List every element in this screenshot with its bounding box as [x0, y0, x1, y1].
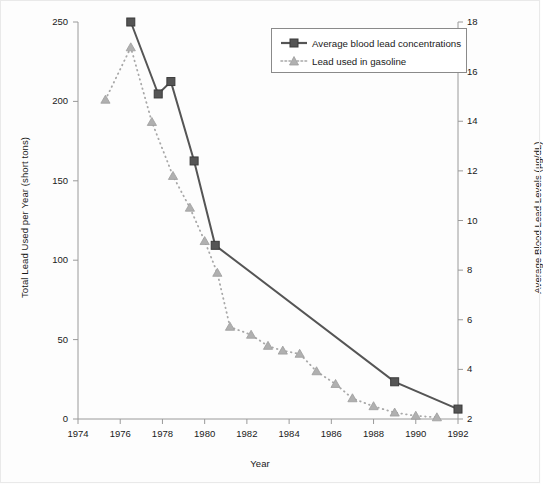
left-tick-label-200: 200 — [28, 95, 68, 106]
left-tick-label-100: 100 — [28, 254, 68, 265]
data-point-marker — [101, 95, 110, 103]
caption-fragment — [6, 470, 266, 482]
right-tick-label-4: 4 — [467, 363, 507, 374]
data-point-marker — [200, 237, 209, 245]
data-point-marker — [213, 268, 222, 276]
x-tick-label-1986: 1986 — [311, 428, 351, 439]
data-point-marker — [126, 43, 135, 51]
right-axis-title: Average Blood Lead Levels (µg/dL) — [532, 118, 543, 318]
x-tick-label-1988: 1988 — [354, 428, 394, 439]
right-tick-label-6: 6 — [467, 314, 507, 325]
x-tick-label-1982: 1982 — [227, 428, 267, 439]
data-point-marker — [167, 78, 175, 86]
data-point-marker — [331, 379, 340, 387]
data-point-marker — [190, 157, 198, 165]
data-point-marker — [348, 394, 357, 402]
right-tick-label-18: 18 — [467, 16, 507, 27]
data-point-marker — [278, 346, 287, 354]
data-point-marker — [369, 402, 378, 410]
left-tick-label-250: 250 — [28, 16, 68, 27]
right-tick-label-12: 12 — [467, 165, 507, 176]
data-point-marker — [432, 413, 441, 421]
data-point-marker — [411, 411, 420, 419]
data-point-marker — [154, 90, 162, 98]
left-tick-label-150: 150 — [28, 175, 68, 186]
right-tick-label-16: 16 — [467, 66, 507, 77]
right-tick-label-10: 10 — [467, 215, 507, 226]
left-axis-ticks — [73, 22, 78, 419]
left-tick-label-50: 50 — [28, 334, 68, 345]
right-tick-label-14: 14 — [467, 115, 507, 126]
x-tick-label-1980: 1980 — [185, 428, 225, 439]
data-point-marker — [263, 341, 272, 349]
legend-item-blood-lead: Average blood lead concentrations — [279, 34, 460, 52]
right-axis-ticks — [458, 22, 463, 419]
x-axis-ticks — [78, 419, 458, 424]
chart-legend: Average blood lead concentrations Lead u… — [271, 28, 467, 73]
legend-triangle-marker-icon — [279, 54, 309, 68]
x-tick-label-1976: 1976 — [100, 428, 140, 439]
x-tick-label-1990: 1990 — [396, 428, 436, 439]
data-point-marker — [168, 171, 177, 179]
right-tick-label-8: 8 — [467, 264, 507, 275]
right-tick-label-2: 2 — [467, 413, 507, 424]
left-axis-title: Total Lead Used per Year (short tons) — [19, 118, 30, 318]
series-average-blood-lead-concentrations — [127, 18, 462, 413]
x-tick-label-1984: 1984 — [269, 428, 309, 439]
series-lead-used-in-gasoline — [101, 43, 442, 421]
x-tick-label-1978: 1978 — [142, 428, 182, 439]
data-point-marker — [211, 241, 219, 249]
legend-square-marker-icon — [279, 36, 309, 50]
data-point-marker — [454, 405, 462, 413]
data-point-marker — [225, 322, 234, 330]
legend-item-gasoline-lead: Lead used in gasoline — [279, 52, 460, 70]
data-point-marker — [127, 18, 135, 26]
x-tick-label-1974: 1974 — [58, 428, 98, 439]
data-point-marker — [391, 378, 399, 386]
x-tick-label-1992: 1992 — [438, 428, 478, 439]
data-point-marker — [185, 203, 194, 211]
x-axis-title: Year — [200, 458, 320, 469]
left-tick-label-0: 0 — [28, 413, 68, 424]
legend-label-blood-lead: Average blood lead concentrations — [312, 38, 461, 49]
legend-label-gasoline-lead: Lead used in gasoline — [312, 56, 406, 67]
data-point-marker — [147, 117, 156, 125]
